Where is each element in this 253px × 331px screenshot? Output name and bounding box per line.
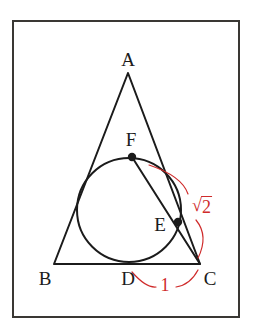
- triangle-abc: [54, 73, 200, 264]
- measure-label-fc: √2: [192, 196, 212, 216]
- measure-label-dc: 1: [161, 276, 170, 294]
- measure-arc-dc-left: [132, 272, 156, 287]
- radicand-value: 2: [201, 196, 212, 216]
- point-label-f: F: [126, 130, 137, 149]
- point-label-e: E: [154, 215, 166, 234]
- vertex-label-b: B: [39, 269, 52, 288]
- point-dot-e: [174, 218, 182, 226]
- point-dot-f: [128, 153, 136, 161]
- vertex-label-a: A: [121, 50, 135, 69]
- measure-arc-fc-lower: [196, 220, 203, 258]
- figure-page: A F E B D C 1 √2: [0, 0, 253, 331]
- vertex-label-c: C: [204, 269, 217, 288]
- measure-arc-dc-right: [176, 270, 198, 287]
- point-label-d: D: [121, 269, 135, 288]
